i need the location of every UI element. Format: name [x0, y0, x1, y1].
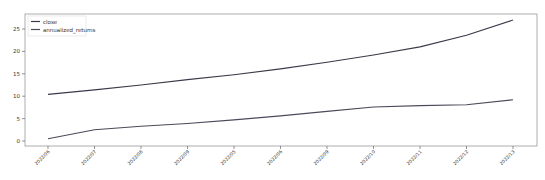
x-tick-label: 2022/13 — [499, 149, 516, 166]
y-tick-label: 5 — [17, 116, 21, 122]
y-tick-label: 0 — [17, 138, 21, 144]
x-tick-label: 2022/09 — [313, 149, 330, 166]
line-chart: 0510152025 2022/062022/072022/082022/092… — [0, 0, 545, 180]
x-tick-label: 2022/08 — [127, 149, 144, 166]
x-tick-label: 2022/07 — [80, 149, 97, 166]
y-tick-label: 20 — [13, 48, 20, 54]
x-tick-label: 2022/11 — [406, 149, 423, 166]
legend: close annualized_returns — [28, 16, 96, 36]
plot-area — [25, 14, 537, 146]
legend-label-annualized-returns: annualized_returns — [43, 27, 96, 34]
x-tick-label: 2022/12 — [452, 149, 469, 166]
y-tick-label: 10 — [13, 93, 20, 99]
x-tick-label: 2022/05 — [220, 149, 237, 166]
y-tick-label: 25 — [13, 26, 20, 32]
legend-label-close: close — [43, 19, 58, 25]
x-tick-label: 2022/06 — [34, 149, 51, 166]
x-axis: 2022/062022/072022/082022/092022/052022/… — [34, 146, 516, 166]
x-tick-label: 2022/09 — [173, 149, 190, 166]
x-tick-label: 2022/06 — [266, 149, 283, 166]
y-tick-label: 15 — [13, 71, 20, 77]
y-axis: 0510152025 — [13, 26, 25, 144]
x-tick-label: 2022/10 — [359, 149, 376, 166]
